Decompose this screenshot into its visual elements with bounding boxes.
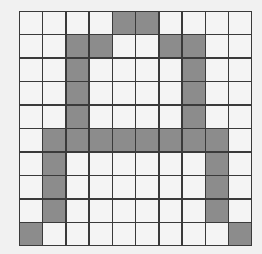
grid-cell bbox=[90, 200, 112, 222]
grid-cell bbox=[20, 153, 42, 175]
grid-cell bbox=[90, 176, 112, 198]
grid-cell bbox=[90, 35, 112, 57]
grid-cell bbox=[113, 106, 135, 128]
grid-cell bbox=[229, 12, 251, 34]
grid-cell bbox=[160, 12, 182, 34]
grid-cell bbox=[113, 82, 135, 104]
grid-cell bbox=[160, 153, 182, 175]
grid-cell bbox=[136, 200, 158, 222]
grid-cell bbox=[43, 12, 65, 34]
grid-cell bbox=[160, 200, 182, 222]
grid-cell bbox=[136, 82, 158, 104]
grid-cell bbox=[113, 12, 135, 34]
grid-cell bbox=[183, 82, 205, 104]
grid-cell bbox=[113, 129, 135, 151]
grid-cell bbox=[43, 82, 65, 104]
grid-cell bbox=[183, 106, 205, 128]
grid-cell bbox=[160, 223, 182, 245]
grid-cell bbox=[67, 12, 89, 34]
grid-cell bbox=[229, 129, 251, 151]
grid-cell bbox=[43, 223, 65, 245]
grid-cell bbox=[20, 35, 42, 57]
grid-cell bbox=[90, 129, 112, 151]
grid-cell bbox=[43, 35, 65, 57]
grid-cell bbox=[20, 82, 42, 104]
grid-cell bbox=[43, 153, 65, 175]
grid-cell bbox=[67, 129, 89, 151]
pixel-grid bbox=[19, 11, 252, 246]
grid-cell bbox=[206, 12, 228, 34]
grid-cell bbox=[90, 82, 112, 104]
grid-cell bbox=[67, 153, 89, 175]
grid-cell bbox=[206, 176, 228, 198]
grid-cell bbox=[183, 12, 205, 34]
grid-cell bbox=[183, 223, 205, 245]
grid-cell bbox=[206, 35, 228, 57]
grid-cell bbox=[160, 176, 182, 198]
grid-cell bbox=[136, 129, 158, 151]
grid-cell bbox=[206, 223, 228, 245]
grid-cell bbox=[229, 200, 251, 222]
grid-cell bbox=[113, 35, 135, 57]
grid-cell bbox=[136, 12, 158, 34]
grid-cell bbox=[160, 35, 182, 57]
grid-cell bbox=[206, 153, 228, 175]
grid-cell bbox=[20, 176, 42, 198]
grid-cell bbox=[206, 129, 228, 151]
grid-cell bbox=[113, 223, 135, 245]
grid-cell bbox=[183, 176, 205, 198]
grid-cell bbox=[136, 176, 158, 198]
grid-cell bbox=[160, 59, 182, 81]
grid-cell bbox=[183, 35, 205, 57]
grid-cell bbox=[20, 223, 42, 245]
grid-cell bbox=[160, 106, 182, 128]
grid-cell bbox=[229, 59, 251, 81]
grid-cell bbox=[183, 200, 205, 222]
grid-cell bbox=[90, 223, 112, 245]
grid-cell bbox=[160, 82, 182, 104]
grid-cell bbox=[43, 200, 65, 222]
grid-cell bbox=[20, 106, 42, 128]
grid-cell bbox=[113, 59, 135, 81]
grid-cell bbox=[67, 106, 89, 128]
grid-cell bbox=[183, 129, 205, 151]
grid-cell bbox=[113, 153, 135, 175]
grid-cell bbox=[43, 176, 65, 198]
grid-cell bbox=[206, 59, 228, 81]
grid-cell bbox=[90, 106, 112, 128]
grid-cell bbox=[229, 153, 251, 175]
grid-cell bbox=[183, 153, 205, 175]
grid-cell bbox=[20, 200, 42, 222]
grid-cell bbox=[67, 223, 89, 245]
grid-cell bbox=[229, 223, 251, 245]
grid-cell bbox=[67, 82, 89, 104]
grid-cell bbox=[43, 129, 65, 151]
grid-cell bbox=[43, 59, 65, 81]
grid-cell bbox=[183, 59, 205, 81]
grid-cell bbox=[206, 106, 228, 128]
grid-cell bbox=[229, 82, 251, 104]
grid-cell bbox=[67, 59, 89, 81]
grid-cell bbox=[90, 153, 112, 175]
grid-cell bbox=[113, 200, 135, 222]
grid-cell bbox=[206, 200, 228, 222]
grid-cell bbox=[229, 176, 251, 198]
grid-cell bbox=[136, 35, 158, 57]
grid-cell bbox=[43, 106, 65, 128]
grid-cell bbox=[136, 106, 158, 128]
grid-cell bbox=[67, 200, 89, 222]
grid-cell bbox=[20, 59, 42, 81]
grid-cell bbox=[20, 12, 42, 34]
grid-cell bbox=[90, 59, 112, 81]
grid-cell bbox=[136, 59, 158, 81]
grid-cell bbox=[229, 35, 251, 57]
grid-cell bbox=[136, 223, 158, 245]
grid-cell bbox=[113, 176, 135, 198]
grid-cell bbox=[160, 129, 182, 151]
grid-cell bbox=[136, 153, 158, 175]
grid-cell bbox=[67, 35, 89, 57]
grid-cell bbox=[229, 106, 251, 128]
grid-cell bbox=[67, 176, 89, 198]
grid-cell bbox=[90, 12, 112, 34]
grid-cell bbox=[206, 82, 228, 104]
